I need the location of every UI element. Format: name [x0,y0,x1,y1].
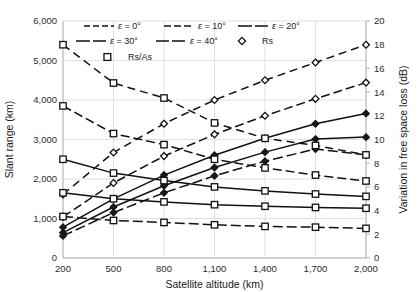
marker-square [363,178,369,184]
marker-square [60,103,66,109]
marker-square [211,184,217,190]
y2-tick-label: 14 [374,87,385,98]
marker-square [161,199,167,205]
marker-square [312,224,318,230]
y-axis-title: Slant range (km) [3,101,15,179]
y2-tick-label: 0 [374,252,379,263]
marker-square [110,170,116,176]
legend-item-label: ε = 20° [272,21,300,31]
marker-square [312,191,318,197]
marker-square [110,80,116,86]
y-tick-label: 4,000 [33,94,57,105]
marker-square [363,193,369,199]
y2-axis-title: Variation in free space loss (dB) [397,65,409,213]
y2-tick-label: 6 [374,181,379,192]
y-tick-label: 6,000 [33,15,57,26]
x-tick-label: 1,100 [203,263,227,274]
y2-tick-label: 18 [374,39,385,50]
y2-tick-label: 10 [374,134,385,145]
marker-square [312,204,318,210]
chart-figure: 2005008001,1001,4001,7002,000 01,0002,00… [0,0,418,292]
marker-square [211,222,217,228]
marker-square [161,219,167,225]
legend-item-label: ε = 10° [198,21,226,31]
marker-square [110,217,116,223]
slant-range-free-space-loss-chart: 2005008001,1001,4001,7002,000 01,0002,00… [0,0,418,292]
y-tick-label: 1,000 [33,213,57,224]
x-tick-label: 2,000 [354,263,378,274]
legend-item[interactable]: Rs/As [104,52,153,62]
marker-square [363,205,369,211]
marker-square [262,203,268,209]
marker-square [110,196,116,202]
x-tick-label: 500 [106,263,122,274]
y2-tick-label: 4 [374,205,379,216]
legend-item-label: ε = 40° [190,36,218,46]
marker-square [312,142,318,148]
legend-item-label: ε = 30° [110,36,138,46]
marker-square [161,141,167,147]
x-tick-label: 200 [55,263,71,274]
y2-tick-label: 8 [374,158,379,169]
y2-tick-label: 2 [374,229,379,240]
y-tick-label: 2,000 [33,173,57,184]
legend-item-label: Rs [262,36,273,46]
y-tick-label: 0 [52,252,57,263]
legend-square-swatch [104,54,111,61]
x-tick-label: 800 [156,263,172,274]
x-tick-label: 1,400 [253,263,277,274]
marker-square [211,120,217,126]
marker-square [110,130,116,136]
marker-square [211,201,217,207]
marker-square [161,95,167,101]
marker-square [363,225,369,231]
legend-item-label: ε = 0° [118,21,141,31]
marker-square [211,156,217,162]
marker-square [262,188,268,194]
x-axis-title: Satellite altitude (km) [165,278,263,290]
y-tick-label: 3,000 [33,134,57,145]
marker-square [161,177,167,183]
marker-square [60,42,66,48]
y2-tick-label: 20 [374,15,385,26]
legend-item-label: Rs/As [128,52,153,62]
marker-square [60,156,66,162]
marker-square [363,152,369,158]
y2-tick-label: 16 [374,63,385,74]
marker-square [262,165,268,171]
marker-square [60,213,66,219]
marker-square [262,135,268,141]
y-tick-label: 5,000 [33,55,57,66]
x-tick-label: 1,700 [304,263,328,274]
marker-square [312,172,318,178]
marker-square [60,190,66,196]
marker-square [262,223,268,229]
y2-tick-label: 12 [374,110,385,121]
